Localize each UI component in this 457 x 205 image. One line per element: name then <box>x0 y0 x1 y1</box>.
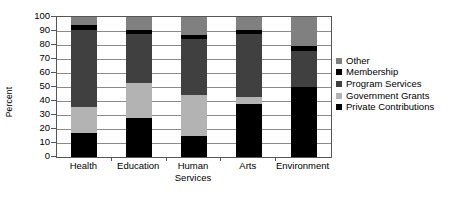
bar-segment[interactable] <box>126 34 152 83</box>
bar-segment[interactable] <box>291 46 317 50</box>
y-axis-title-text: Percent <box>4 87 14 118</box>
stacked-bar[interactable] <box>71 17 97 157</box>
bar-group[interactable] <box>126 17 152 157</box>
y-axis-title: Percent <box>2 62 16 142</box>
bar-segment[interactable] <box>236 104 262 157</box>
x-axis-tick-label: Arts <box>220 160 275 172</box>
bar-segment[interactable] <box>236 30 262 34</box>
y-axis-tick-label: 10 <box>18 137 50 147</box>
legend-item[interactable]: Government Grants <box>336 90 457 102</box>
x-axis-tick-label: Human Services <box>166 160 221 183</box>
legend-swatch-icon <box>336 104 342 110</box>
y-axis-tick-label: 40 <box>18 95 50 105</box>
plot-area <box>56 16 332 158</box>
legend-item-label: Other <box>346 56 370 66</box>
legend-item-label: Membership <box>346 67 398 77</box>
stacked-bar[interactable] <box>291 17 317 157</box>
bar-group[interactable] <box>181 17 207 157</box>
bar-segment[interactable] <box>181 17 207 35</box>
legend-swatch-icon <box>336 58 342 64</box>
bar-segment[interactable] <box>71 30 97 107</box>
bar-segment[interactable] <box>236 34 262 97</box>
y-axis-tick-label: 90 <box>18 25 50 35</box>
bar-segment[interactable] <box>126 83 152 118</box>
bars-layer <box>57 17 331 157</box>
bar-group[interactable] <box>71 17 97 157</box>
stacked-bar[interactable] <box>126 17 152 157</box>
legend: OtherMembershipProgram ServicesGovernmen… <box>336 55 457 113</box>
bar-segment[interactable] <box>71 25 97 29</box>
bar-segment[interactable] <box>181 95 207 136</box>
y-axis-tick-label: 100 <box>18 11 50 21</box>
y-axis-tick-label: 50 <box>18 81 50 91</box>
bar-segment[interactable] <box>71 107 97 134</box>
bar-segment[interactable] <box>126 118 152 157</box>
x-axis-labels: HealthEducationHuman ServicesArtsEnviron… <box>56 160 330 200</box>
bar-segment[interactable] <box>291 87 317 157</box>
stacked-bar[interactable] <box>236 17 262 157</box>
stacked-bar[interactable] <box>181 17 207 157</box>
bar-segment[interactable] <box>181 39 207 95</box>
y-axis-tick-label: 60 <box>18 67 50 77</box>
legend-item-label: Program Services <box>346 79 422 89</box>
bar-group[interactable] <box>291 17 317 157</box>
x-axis-tick-label: Health <box>56 160 111 172</box>
y-axis-tick-label: 80 <box>18 39 50 49</box>
legend-item[interactable]: Program Services <box>336 78 457 90</box>
legend-item[interactable]: Other <box>336 55 457 67</box>
bar-segment[interactable] <box>291 17 317 46</box>
bar-segment[interactable] <box>126 30 152 34</box>
y-axis-tick-label: 70 <box>18 53 50 63</box>
bar-segment[interactable] <box>236 17 262 30</box>
bar-segment[interactable] <box>71 17 97 25</box>
x-axis-tick-label: Education <box>111 160 166 172</box>
bar-segment[interactable] <box>181 136 207 157</box>
legend-item[interactable]: Private Contributions <box>336 101 457 113</box>
y-axis-tick-label: 0 <box>18 151 50 161</box>
bar-segment[interactable] <box>291 51 317 87</box>
legend-item-label: Government Grants <box>346 91 429 101</box>
legend-item[interactable]: Membership <box>336 67 457 79</box>
x-axis-tick-label: Environment <box>275 160 330 172</box>
bar-segment[interactable] <box>71 133 97 157</box>
y-axis-tick-label: 30 <box>18 109 50 119</box>
bar-segment[interactable] <box>126 17 152 30</box>
legend-swatch-icon <box>336 81 342 87</box>
bar-segment[interactable] <box>236 97 262 104</box>
stacked-bar-chart: Percent 1009080706050403020100 HealthEdu… <box>0 0 457 205</box>
y-axis-tick-label: 20 <box>18 123 50 133</box>
bar-group[interactable] <box>236 17 262 157</box>
legend-swatch-icon <box>336 93 342 99</box>
bar-segment[interactable] <box>181 35 207 39</box>
legend-item-label: Private Contributions <box>346 102 434 112</box>
legend-swatch-icon <box>336 69 342 75</box>
